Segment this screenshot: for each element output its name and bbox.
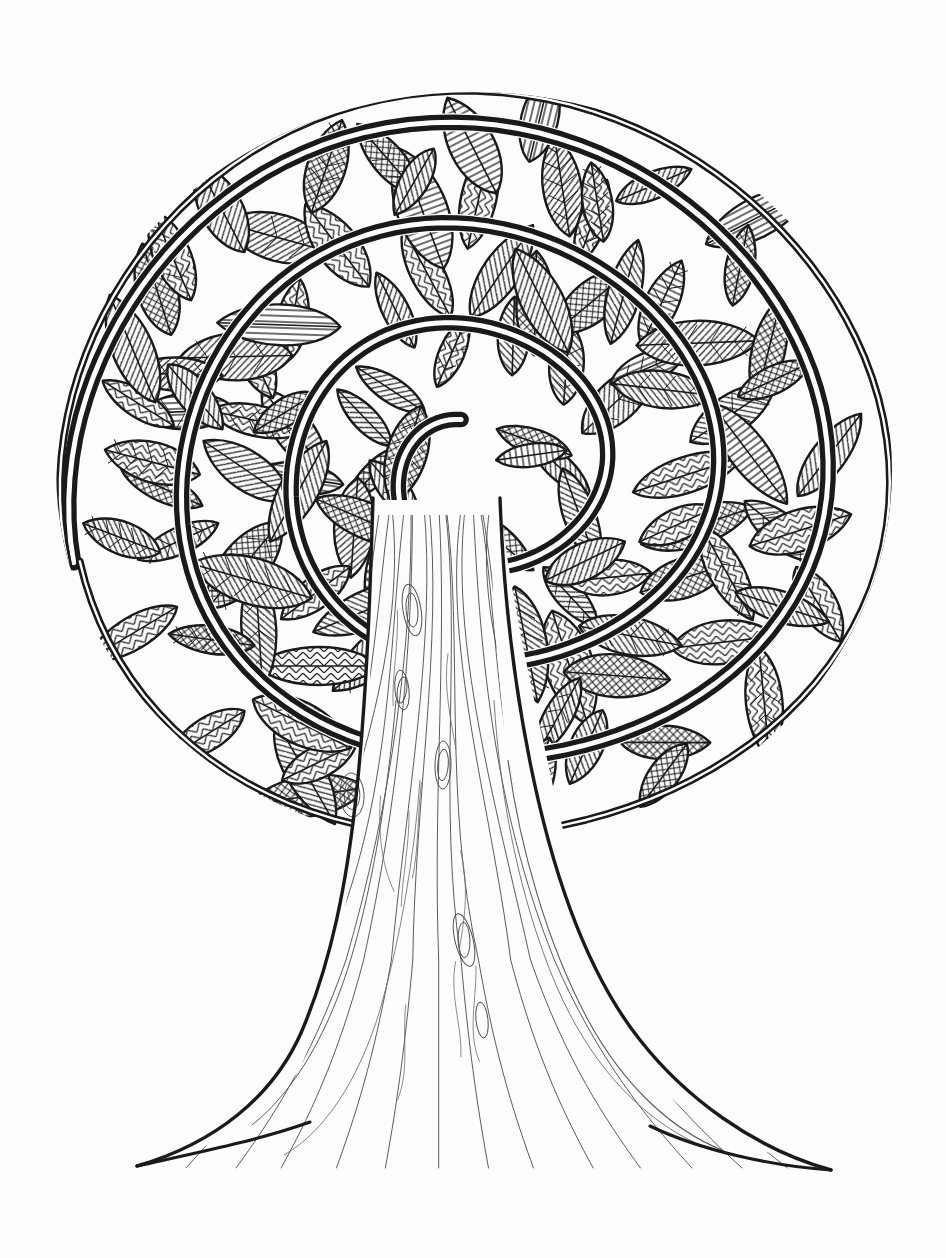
- artwork-canvas: Spiral-Canopy Tree coloring-book line ar…: [0, 0, 946, 1258]
- tree-line-art: Spiral-Canopy Tree coloring-book line ar…: [0, 0, 946, 1258]
